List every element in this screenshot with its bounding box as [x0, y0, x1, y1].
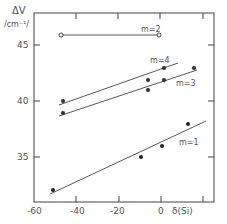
plot-frame [34, 13, 214, 202]
fit-line-m1 [50, 121, 206, 194]
series-label-m1: m=1 [179, 138, 199, 147]
series-m1-points [51, 122, 190, 192]
x-tick-label-neg40: -40 [70, 206, 85, 216]
y-tick-label-40: 40 [17, 96, 28, 106]
x-tick-label-neg60: -60 [27, 206, 42, 216]
series-label-m3: m=3 [176, 79, 196, 88]
y-tick-label-45: 45 [17, 40, 28, 50]
fit-line-m4 [59, 63, 178, 105]
x-tick-label-0: 0 [158, 206, 164, 216]
series-m4-points [61, 66, 166, 103]
series-m3-points [61, 66, 196, 115]
series-label-m4: m=4 [150, 56, 170, 65]
x-axis-ticks [76, 13, 203, 202]
fit-line-m3 [59, 70, 197, 116]
y-axis-unit: /cm⁻¹/ [4, 20, 29, 29]
series-label-m2: m=2 [141, 25, 161, 34]
chart-plot [0, 0, 227, 224]
y-tick-label-35: 35 [17, 152, 28, 162]
y-axis-label: ΔV [12, 5, 26, 16]
x-axis-label: δ(Si) [172, 206, 193, 216]
x-tick-label-neg20: -20 [110, 206, 125, 216]
